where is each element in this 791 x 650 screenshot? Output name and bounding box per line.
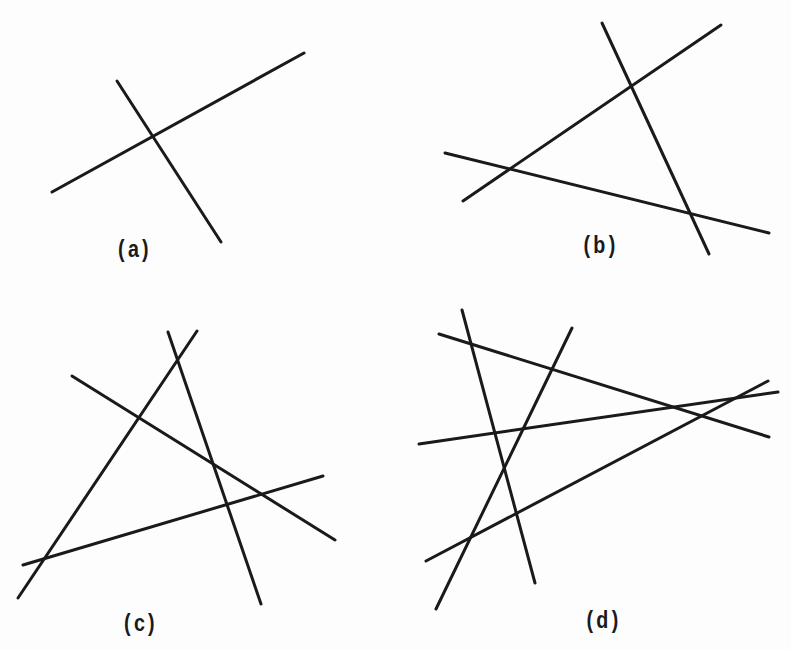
line-d-5 — [426, 381, 768, 561]
line-d-4 — [419, 392, 778, 444]
line-c-1 — [168, 332, 261, 604]
line-b-3 — [445, 153, 769, 233]
panel-c-lines — [18, 331, 335, 604]
panel-d-lines — [419, 310, 778, 609]
line-d-1 — [462, 310, 535, 583]
line-b-2 — [463, 25, 721, 201]
line-arrangement-figure: (a) (b) (c) (d) — [0, 0, 791, 650]
line-b-1 — [602, 23, 709, 254]
panel-label-a: (a) — [118, 235, 152, 263]
panel-a-lines — [52, 53, 304, 242]
line-d-3 — [439, 334, 769, 437]
panel-b-lines — [445, 23, 769, 254]
panel-label-b: (b) — [584, 231, 619, 259]
line-c-4 — [23, 476, 323, 565]
lines-canvas — [0, 0, 791, 650]
panel-label-c: (c) — [124, 609, 158, 637]
line-a-2 — [117, 81, 221, 242]
line-a-1 — [52, 53, 304, 192]
panel-label-d: (d) — [587, 606, 622, 634]
